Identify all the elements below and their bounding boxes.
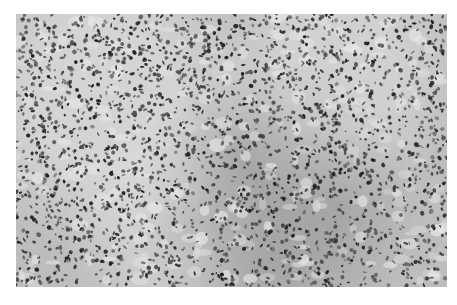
cell-texture xyxy=(16,14,447,287)
figure-caption xyxy=(24,294,444,305)
micrograph-image xyxy=(16,14,447,287)
